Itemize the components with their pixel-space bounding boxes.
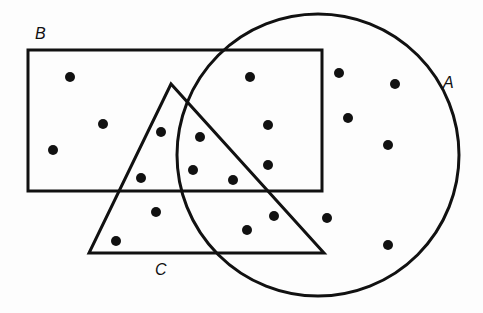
dot [263,120,273,130]
venn-diagram: A B C [0,0,483,313]
dot [245,72,255,82]
dot [242,225,252,235]
dot [383,140,393,150]
dot [343,113,353,123]
dot [156,127,166,137]
dots-group [48,68,400,250]
dot [65,72,75,82]
set-a-label: A [443,74,454,92]
set-c-label: C [155,261,167,279]
dot [195,132,205,142]
dot [390,79,400,89]
dot [98,119,108,129]
dot [269,211,279,221]
dot [151,207,161,217]
set-b-label: B [35,25,46,43]
dot [383,240,393,250]
set-b-rectangle [28,50,322,191]
dot [228,175,238,185]
dot [334,68,344,78]
dot [188,165,198,175]
diagram-canvas [0,0,483,313]
dot [322,213,332,223]
set-c-triangle [89,84,324,253]
dot [48,145,58,155]
dot [111,236,121,246]
dot [263,160,273,170]
dot [136,173,146,183]
